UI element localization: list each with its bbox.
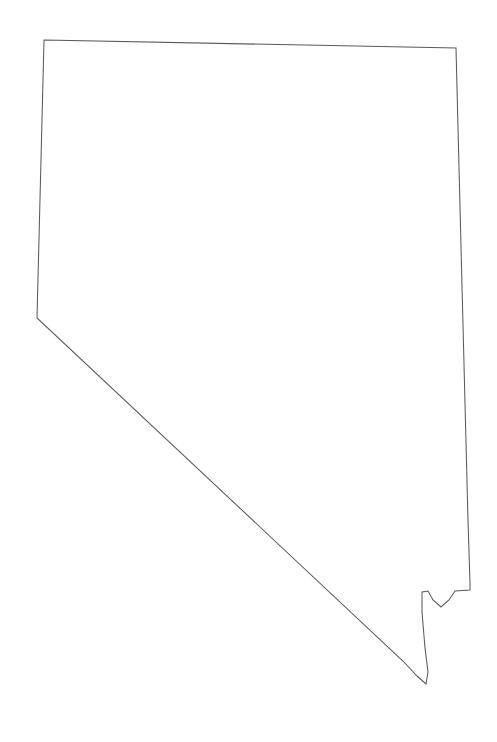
- nevada-hachure-relief-map: [0, 0, 497, 742]
- map-canvas: [0, 0, 497, 742]
